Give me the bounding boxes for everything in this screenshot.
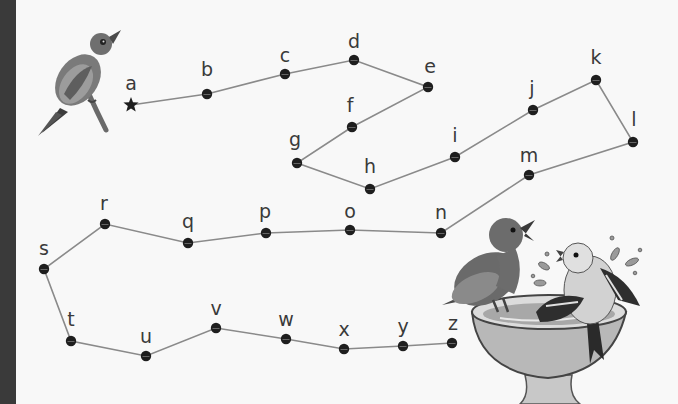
letter-label-z: z bbox=[448, 312, 458, 334]
dot-s bbox=[39, 264, 49, 274]
dot-h bbox=[365, 184, 375, 194]
letter-label-y: y bbox=[397, 315, 408, 337]
letter-label-o: o bbox=[344, 200, 356, 222]
connect-the-dots-canvas: abcdefghijklmnopqrstuvwxyz bbox=[0, 0, 678, 404]
dot-k bbox=[591, 75, 601, 85]
dot-g bbox=[292, 158, 302, 168]
dot-i bbox=[450, 152, 460, 162]
letter-label-c: c bbox=[280, 44, 290, 66]
dot-d bbox=[349, 55, 359, 65]
letter-label-h: h bbox=[364, 155, 376, 177]
letter-label-g: g bbox=[289, 128, 301, 150]
dot-r bbox=[100, 219, 110, 229]
letter-label-q: q bbox=[182, 210, 194, 232]
letter-label-v: v bbox=[210, 297, 221, 319]
dot-u bbox=[141, 351, 151, 361]
dot-b bbox=[202, 89, 212, 99]
dot-e bbox=[423, 82, 433, 92]
letter-label-e: e bbox=[424, 55, 436, 77]
dot-x bbox=[339, 344, 349, 354]
dot-t bbox=[66, 336, 76, 346]
letter-label-j: j bbox=[528, 77, 534, 99]
dot-q bbox=[183, 238, 193, 248]
letter-label-n: n bbox=[435, 201, 447, 223]
letter-label-u: u bbox=[140, 325, 152, 347]
letter-label-w: w bbox=[278, 308, 294, 330]
dot-p bbox=[261, 228, 271, 238]
dot-y bbox=[398, 341, 408, 351]
letter-label-p: p bbox=[259, 200, 271, 222]
letter-label-r: r bbox=[100, 192, 108, 214]
letter-label-d: d bbox=[348, 30, 360, 52]
letter-label-x: x bbox=[338, 318, 349, 340]
dot-f bbox=[347, 122, 357, 132]
letter-label-m: m bbox=[520, 144, 539, 166]
letter-label-t: t bbox=[67, 308, 74, 330]
letter-label-s: s bbox=[39, 237, 49, 259]
letter-label-i: i bbox=[452, 124, 457, 146]
dot-v bbox=[211, 323, 221, 333]
dot-z bbox=[447, 338, 457, 348]
dot-w bbox=[281, 334, 291, 344]
letter-label-b: b bbox=[201, 58, 213, 80]
dot-l bbox=[628, 137, 638, 147]
dot-o bbox=[345, 225, 355, 235]
dot-c bbox=[280, 69, 290, 79]
dot-m bbox=[524, 170, 534, 180]
dot-j bbox=[528, 105, 538, 115]
letter-label-k: k bbox=[590, 46, 601, 68]
dot-n bbox=[436, 228, 446, 238]
letter-label-a: a bbox=[125, 72, 137, 94]
letter-label-l: l bbox=[631, 108, 636, 130]
